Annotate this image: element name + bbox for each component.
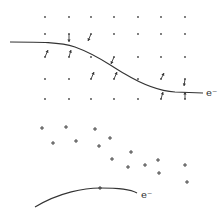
positive-ion-plus <box>110 157 114 161</box>
lattice-site <box>160 33 162 35</box>
positive-ion-plus <box>183 163 187 167</box>
displaced-ion-arrow <box>111 57 114 64</box>
positive-ion-plus <box>129 150 133 154</box>
electron-label-top: e⁻ <box>206 87 217 98</box>
lattice-site <box>113 16 115 18</box>
lattice-site <box>44 16 46 18</box>
displaced-ion-arrow <box>45 50 48 57</box>
displaced-ion-arrow <box>67 34 70 42</box>
positive-ion-plus <box>64 125 68 129</box>
lattice-site <box>160 16 162 18</box>
positive-ion-plus <box>74 139 78 143</box>
displaced-ion-arrow <box>183 92 186 99</box>
lattice-site <box>137 56 139 58</box>
displaced-ion-arrow <box>161 92 164 99</box>
lattice-site <box>113 98 115 100</box>
displaced-ion-arrow <box>114 72 117 79</box>
positive-ion-plus <box>157 171 161 175</box>
positive-ion-plus <box>185 180 189 184</box>
lattice-site <box>68 98 70 100</box>
positive-ion-plus <box>40 126 44 130</box>
lattice-site <box>90 98 92 100</box>
lattice-site <box>184 56 186 58</box>
electron-trajectory-top <box>10 42 203 93</box>
positive-ion-plus <box>143 163 147 167</box>
positive-ion-plus <box>93 127 97 131</box>
displaced-ion-arrow <box>161 73 164 79</box>
lattice-site <box>137 16 139 18</box>
lattice-site <box>184 33 186 35</box>
lattice-site <box>68 16 70 18</box>
lattice-site <box>113 33 115 35</box>
lattice-site <box>137 98 139 100</box>
displaced-ion-arrow <box>183 79 186 86</box>
displaced-ion-arrow <box>69 50 72 57</box>
lattice-site <box>90 56 92 58</box>
lattice-site <box>184 16 186 18</box>
positive-ion-plus <box>108 136 112 140</box>
lattice-site <box>44 78 46 80</box>
positive-ion-plus <box>97 144 101 148</box>
lattice-site <box>90 16 92 18</box>
positive-ion-plus <box>126 165 130 169</box>
ion-lattice <box>44 16 187 100</box>
positive-ion-plus <box>51 141 55 145</box>
lattice-site <box>44 98 46 100</box>
positive-ion-plus <box>156 158 160 162</box>
lattice-site <box>68 78 70 80</box>
lattice-site <box>44 33 46 35</box>
displaced-ion-arrow <box>88 34 91 41</box>
displaced-ion-arrow <box>91 72 94 79</box>
electron-trajectory-bottom <box>35 188 137 207</box>
lattice-site <box>137 78 139 80</box>
lattice-site <box>137 33 139 35</box>
lattice-site <box>160 56 162 58</box>
electron-label-bottom: e⁻ <box>141 189 152 200</box>
positive-ion-cluster <box>40 125 189 190</box>
electron-lattice-diagram: e⁻ e⁻ <box>0 0 223 217</box>
